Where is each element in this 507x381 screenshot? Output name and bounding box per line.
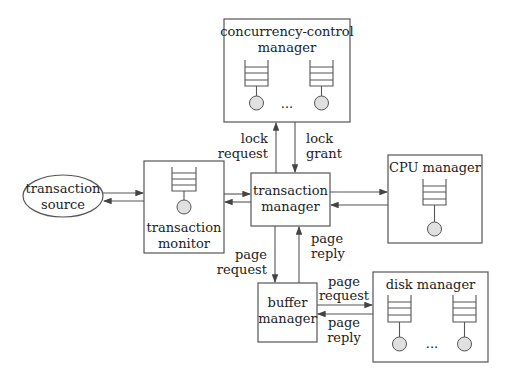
disk-manager-node: disk manager ...	[373, 272, 488, 362]
svg-text:CPU manager: CPU manager	[389, 160, 482, 175]
svg-text:source: source	[41, 197, 85, 212]
svg-text:transaction: transaction	[253, 183, 328, 198]
svg-text:page: page	[328, 274, 360, 289]
edge-label-lock-grant: lock grant	[306, 131, 343, 161]
svg-text:monitor: monitor	[158, 236, 211, 251]
svg-text:disk manager: disk manager	[386, 277, 476, 292]
ccm-label-1: concurrency-control	[220, 24, 354, 39]
svg-text:grant: grant	[306, 146, 343, 161]
svg-text:manager: manager	[261, 199, 320, 214]
svg-text:request: request	[217, 262, 268, 277]
transaction-system-diagram: concurrency-control manager ... transact…	[0, 0, 507, 381]
svg-text:page: page	[235, 247, 267, 262]
svg-text:lock: lock	[241, 131, 268, 146]
transaction-manager-node: transaction manager	[251, 173, 330, 226]
edge-label-page-reply-disk: page reply	[327, 315, 361, 345]
buffer-manager-node: buffer manager	[258, 283, 317, 342]
ccm-ellipsis: ...	[281, 96, 293, 111]
svg-text:buffer: buffer	[268, 295, 309, 310]
edge-label-lock-request: lock request	[218, 131, 269, 161]
disk-ellipsis: ...	[426, 336, 438, 351]
svg-text:reply: reply	[327, 330, 361, 345]
svg-text:page: page	[311, 231, 343, 246]
transaction-monitor-node: transaction monitor	[144, 161, 224, 253]
svg-text:manager: manager	[258, 311, 317, 326]
cpu-manager-node: CPU manager	[388, 155, 482, 243]
svg-text:transaction: transaction	[26, 181, 101, 196]
ccm-label-2: manager	[258, 40, 317, 55]
svg-text:reply: reply	[311, 246, 345, 261]
svg-text:transaction: transaction	[147, 220, 222, 235]
edge-label-page-reply-tm: page reply	[311, 231, 345, 261]
svg-text:request: request	[218, 146, 269, 161]
concurrency-control-manager-node: concurrency-control manager ...	[220, 19, 354, 122]
svg-text:request: request	[319, 288, 370, 303]
transaction-source-node: transaction source	[23, 175, 103, 217]
edge-label-page-request-disk: page request	[319, 274, 370, 303]
svg-text:page: page	[328, 315, 360, 330]
svg-text:lock: lock	[306, 131, 333, 146]
